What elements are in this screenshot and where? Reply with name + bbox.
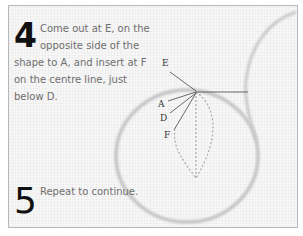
label-f: F [164, 130, 170, 140]
label-a: A [158, 99, 165, 109]
step-4: 4 Come out at E, on the opposite side of… [14, 20, 154, 105]
step-text: Repeat to continue. [40, 186, 138, 197]
step-number: 5 [14, 183, 37, 219]
step-5: 5 Repeat to continue. [14, 183, 214, 219]
step-number: 4 [14, 22, 37, 50]
adjacent-curve [246, 12, 296, 140]
label-d: D [160, 113, 167, 123]
label-e: E [162, 58, 169, 68]
